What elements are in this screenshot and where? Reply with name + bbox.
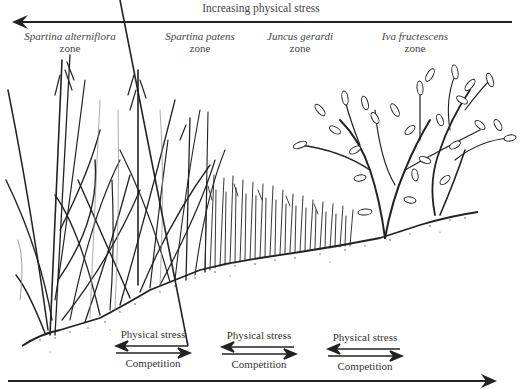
zone-species: Spartina alterniflora: [10, 30, 130, 42]
spartina-patens-juncus-grass: [205, 175, 353, 272]
zone-label-juncus-gerardi: Juncus gerardi zone: [250, 30, 350, 54]
pair-2-competition-label: Competition: [209, 358, 309, 370]
zone-species: Juncus gerardi: [250, 30, 350, 42]
spartina-alterniflora-grass: [6, 55, 225, 335]
pair-3-competition-label: Competition: [315, 360, 415, 372]
zone-suffix: zone: [250, 42, 350, 54]
pair-1-competition-label: Competition: [103, 357, 203, 369]
zone-label-spartina-alterniflora: Spartina alterniflora zone: [10, 30, 130, 54]
zone-suffix: zone: [10, 42, 130, 54]
top-axis-label: Increasing physical stress: [0, 2, 522, 14]
zone-suffix: zone: [150, 42, 250, 54]
zone-label-spartina-patens: Spartina patens zone: [150, 30, 250, 54]
zone-species: Spartina patens: [150, 30, 250, 42]
pair-2-physical-stress-label: Physical stress: [209, 329, 309, 341]
zone-label-iva-fructescens: Iva fructescens zone: [360, 30, 470, 54]
zone-species: Iva fructescens: [360, 30, 470, 42]
bottom-axis-arrow: [8, 374, 497, 388]
zone-suffix: zone: [360, 42, 470, 54]
pair-1-physical-stress-label: Physical stress: [103, 328, 203, 340]
pair-3-physical-stress-label: Physical stress: [315, 331, 415, 343]
top-stress-arrow: [12, 15, 512, 29]
